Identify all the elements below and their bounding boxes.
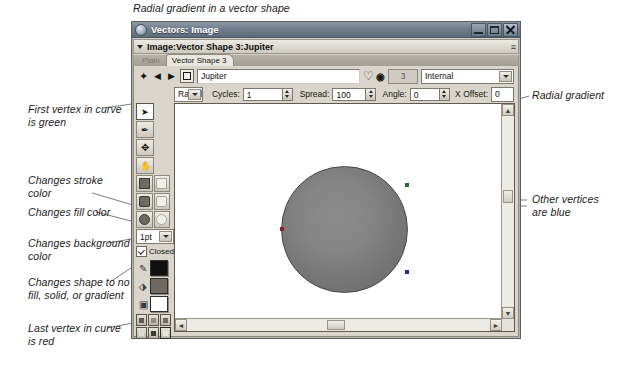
closed-label: Closed <box>149 247 174 256</box>
canvas-area: ▲ ▼ ◄ ► <box>174 103 515 332</box>
path-icon[interactable]: ♡ <box>363 71 374 82</box>
pointer-tool[interactable]: ➤ <box>136 103 154 120</box>
last-vertex[interactable] <box>280 227 284 231</box>
gradient-row: Radial Cycles: 1 Spread: 100 Angle: 0 X <box>134 84 518 102</box>
info-icon[interactable]: ◉ <box>376 71 385 82</box>
chevron-down-icon[interactable] <box>188 89 201 100</box>
cycles-label: Cycles: <box>212 89 240 99</box>
chevron-down-icon[interactable] <box>159 231 172 242</box>
background-color-swatch[interactable] <box>150 296 168 312</box>
closed-checkbox[interactable] <box>136 246 147 257</box>
background-color-row: ▣ <box>136 296 171 312</box>
spread-down-icon[interactable] <box>366 94 375 100</box>
xoffset-label: X Offset: <box>455 89 488 99</box>
scroll-up-icon[interactable]: ▲ <box>502 104 514 116</box>
vectors-window: Vectors: Image Image:Vector Shape 3:Jupi… <box>131 21 521 339</box>
first-vertex[interactable] <box>405 183 409 187</box>
source-value: Internal <box>425 71 453 81</box>
source-dropdown[interactable]: Internal <box>421 69 514 84</box>
angle-label: Angle: <box>383 89 407 99</box>
shape-mode-row-2 <box>136 327 171 339</box>
bucket-icon: ⬗ <box>136 279 150 294</box>
fill-color-swatch[interactable] <box>150 278 168 294</box>
angle-value[interactable]: 0 <box>410 88 439 101</box>
panel-menu-icon[interactable]: ≡ <box>511 42 515 52</box>
shape-swatch-row-3 <box>136 211 171 229</box>
vertical-scroll-thumb[interactable] <box>503 190 513 203</box>
document-title: Image:Vector Shape 3:Jupiter <box>147 42 511 52</box>
callout-other-vertices: Other vertices are blue <box>532 193 617 219</box>
scroll-right-icon[interactable]: ► <box>490 319 502 331</box>
stroke-width-value: 1pt <box>140 232 152 242</box>
window-title: Vectors: Image <box>151 24 470 35</box>
shape-swatch-row-2 <box>136 193 171 211</box>
gradient-fill-button[interactable] <box>160 314 171 326</box>
document-header[interactable]: Image:Vector Shape 3:Jupiter ≡ <box>133 39 519 54</box>
solid-fill-button[interactable] <box>148 314 159 326</box>
solid-stroke-button[interactable] <box>148 327 159 339</box>
hand-tool[interactable]: ✋ <box>136 157 154 174</box>
vertex-right-lower[interactable] <box>405 270 409 274</box>
empty-square-swatch[interactable] <box>154 175 171 192</box>
cycles-stepper[interactable]: 1 <box>243 88 293 101</box>
horizontal-scrollbar[interactable]: ◄ ► <box>175 318 502 331</box>
collapse-triangle-icon[interactable] <box>137 45 143 49</box>
solid-square-swatch[interactable] <box>136 175 153 192</box>
angle-stepper[interactable]: 0 <box>410 88 450 101</box>
first-vertex-button[interactable]: ✦ <box>138 70 149 82</box>
stroke-width-dropdown[interactable]: 1pt <box>136 229 174 244</box>
callout-stroke-color: Changes stroke color <box>28 174 128 200</box>
pen-tool[interactable]: ✒ <box>136 121 154 138</box>
scrollbar-corner <box>502 319 514 331</box>
shape-name-input[interactable]: Jupiter <box>197 69 360 84</box>
radial-gradient-circle[interactable] <box>281 166 408 293</box>
previous-vertex-button[interactable]: ◀ <box>152 70 163 82</box>
gradient-stroke-button[interactable] <box>160 327 171 339</box>
move-tool[interactable]: ✥ <box>136 139 154 156</box>
pencil-icon: ✎ <box>136 261 150 276</box>
gradient-type-dropdown[interactable]: Radial <box>174 87 203 102</box>
closed-checkbox-row[interactable]: Closed <box>136 246 171 257</box>
empty-circle-swatch[interactable] <box>154 211 171 228</box>
callout-radial-gradient: Radial gradient <box>532 89 620 102</box>
no-fill-button[interactable] <box>136 314 147 326</box>
spread-label: Spread: <box>300 89 330 99</box>
maximize-button[interactable] <box>487 23 502 37</box>
minimize-button[interactable] <box>471 23 486 37</box>
shape-panel: ✦ ◀ ▶ Jupiter ♡ ◉ 3 Internal Radial Cycl… <box>133 66 519 337</box>
angle-down-icon[interactable] <box>440 94 449 100</box>
image-icon: ▣ <box>136 297 150 312</box>
next-vertex-button[interactable]: ▶ <box>166 70 177 82</box>
empty-rounded-swatch[interactable] <box>154 193 171 210</box>
horizontal-scroll-thumb[interactable] <box>327 320 345 330</box>
callout-background-color: Changes background color <box>28 237 131 263</box>
close-button[interactable] <box>503 23 518 37</box>
tool-buttons: ➤ ✒ ✥ ✋ <box>136 103 171 175</box>
solid-rounded-swatch[interactable] <box>136 193 153 210</box>
figure-caption: Radial gradient in a vector shape <box>133 2 290 15</box>
chevron-down-icon[interactable] <box>499 71 512 82</box>
name-row: ✦ ◀ ▶ Jupiter ♡ ◉ 3 Internal <box>134 66 518 84</box>
scroll-left-icon[interactable]: ◄ <box>175 319 187 331</box>
xoffset-value[interactable]: 0 <box>491 87 514 102</box>
drawing-canvas[interactable] <box>175 104 502 319</box>
no-stroke-button[interactable] <box>136 327 147 339</box>
stroke-color-swatch[interactable] <box>150 260 168 276</box>
callout-fill-color: Changes fill color <box>28 206 133 219</box>
vector-shape-icon <box>180 69 194 83</box>
callout-shape-mode: Changes shape to no fill, solid, or grad… <box>28 276 133 302</box>
window-titlebar[interactable]: Vectors: Image <box>132 22 520 38</box>
spread-stepper[interactable]: 100 <box>332 88 376 101</box>
shape-mode-row-1 <box>136 314 171 326</box>
callout-last-vertex: Last vertex in curve is red <box>28 322 133 348</box>
solid-circle-swatch[interactable] <box>136 211 153 228</box>
vertical-scrollbar[interactable]: ▲ ▼ <box>501 104 514 319</box>
cycles-down-icon[interactable] <box>283 94 292 100</box>
vertex-count-field[interactable]: 3 <box>388 69 418 84</box>
cycles-value[interactable]: 1 <box>243 88 282 101</box>
scroll-down-icon[interactable]: ▼ <box>502 307 514 319</box>
path-tools: ♡ ◉ <box>363 71 385 82</box>
stroke-color-row: ✎ <box>136 260 171 276</box>
callout-first-vertex: First vertex in curve is green <box>28 103 133 129</box>
spread-value[interactable]: 100 <box>332 88 365 101</box>
